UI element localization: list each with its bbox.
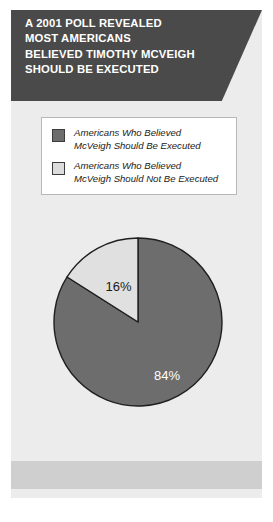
legend-item-not-executed: Americans Who Believed McVeigh Should No… — [52, 160, 218, 185]
pie-chart: 84%16% — [11, 205, 262, 445]
chart-legend: Americans Who Believed McVeigh Should Be… — [41, 117, 237, 195]
footer-strip — [11, 461, 262, 489]
legend-label-executed: Americans Who Believed McVeigh Should Be… — [74, 127, 201, 152]
legend-swatch-not-executed-icon — [52, 162, 65, 175]
pie-slice-value-label: 84% — [154, 368, 180, 383]
pie-slice-value-label: 16% — [106, 279, 132, 294]
poll-infographic-figure: A 2001 POLL REVEALED MOST AMERICANS BELI… — [0, 0, 273, 522]
legend-swatch-executed-icon — [52, 129, 65, 142]
legend-item-executed: Americans Who Believed McVeigh Should Be… — [52, 127, 201, 152]
legend-label-not-executed: Americans Who Believed McVeigh Should No… — [74, 160, 218, 185]
pie-chart-svg: 84%16% — [11, 205, 262, 445]
header-banner — [11, 10, 262, 101]
